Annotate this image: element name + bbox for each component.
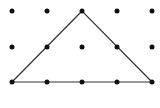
grid-dot [10,9,15,14]
grid-dot [45,9,50,14]
grid-dot [150,80,155,85]
grid-dot [115,80,120,85]
grid-dot [45,45,50,50]
grid-dot [80,9,85,14]
grid-dot [80,80,85,85]
grid-dot [115,9,120,14]
grid-dot [10,45,15,50]
dot-grid [10,9,155,85]
grid-dot [45,80,50,85]
grid-dot [150,9,155,14]
grid-dot [80,45,85,50]
grid-dot [150,45,155,50]
grid-dot [115,45,120,50]
dot-grid-diagram [0,0,160,108]
grid-dot [10,80,15,85]
